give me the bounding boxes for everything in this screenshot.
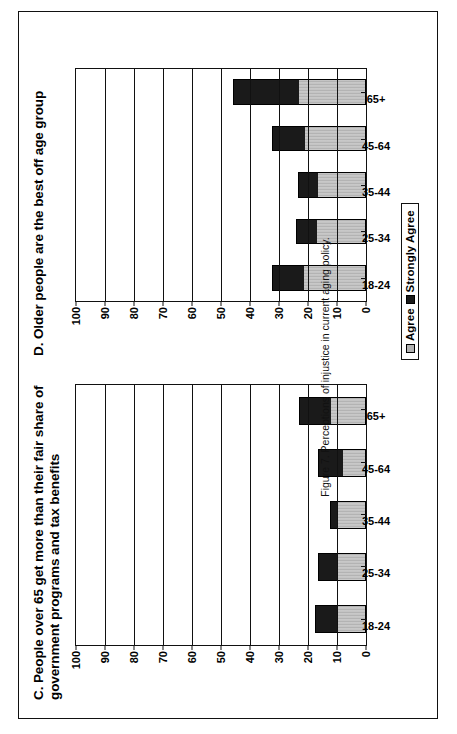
y-axis-label-20: 20 — [302, 307, 314, 319]
y-tick-30 — [278, 645, 279, 650]
gridline-40 — [250, 385, 251, 645]
panel-c-title: C. People over 65 get more than their fa… — [31, 374, 62, 704]
y-axis-label-10: 10 — [331, 651, 343, 663]
bar-segment-strongly-agree-65+ — [232, 79, 299, 105]
stacked-bar-18-24 — [315, 605, 366, 634]
gridline-50 — [221, 69, 222, 301]
stacked-bar-65+ — [232, 79, 365, 105]
stacked-bar-45-64 — [271, 126, 365, 152]
category-label-35-44: 35-44 — [361, 186, 389, 198]
y-tick-40 — [249, 645, 250, 650]
category-label-65+: 65+ — [366, 410, 385, 422]
gridline-20 — [308, 69, 309, 301]
gridline-90 — [105, 69, 106, 301]
y-axis-label-60: 60 — [186, 307, 198, 319]
legend-swatch-agree-icon — [405, 344, 414, 353]
category-label-65+: 65+ — [366, 93, 385, 105]
y-tick-80 — [133, 301, 134, 306]
y-axis-label-40: 40 — [244, 651, 256, 663]
y-tick-70 — [162, 301, 163, 306]
bar-segment-agree-35-44 — [318, 172, 366, 198]
bar-segment-agree-65+ — [331, 397, 366, 426]
y-axis-label-70: 70 — [157, 307, 169, 319]
gridline-30 — [279, 385, 280, 645]
y-axis-label-80: 80 — [128, 651, 140, 663]
y-axis-label-50: 50 — [215, 307, 227, 319]
chart-panel-c: C. People over 65 get more than their fa… — [29, 374, 429, 704]
y-axis-label-90: 90 — [99, 307, 111, 319]
gridline-30 — [279, 69, 280, 301]
y-tick-100 — [75, 301, 76, 306]
category-label-45-64: 45-64 — [361, 463, 389, 475]
gridline-40 — [250, 69, 251, 301]
y-tick-90 — [104, 645, 105, 650]
y-axis-label-20: 20 — [302, 651, 314, 663]
gridline-20 — [308, 385, 309, 645]
gridline-10 — [337, 69, 338, 301]
gridline-60 — [192, 385, 193, 645]
figure-page: C. People over 65 get more than their fa… — [0, 0, 457, 734]
y-axis-label-100: 100 — [70, 307, 82, 325]
category-label-45-64: 45-64 — [361, 140, 389, 152]
legend-item-agree: Agree — [404, 308, 416, 353]
y-axis-label-0: 0 — [360, 307, 372, 313]
y-tick-90 — [104, 301, 105, 306]
y-tick-70 — [162, 645, 163, 650]
y-tick-20 — [307, 645, 308, 650]
y-axis-label-50: 50 — [215, 651, 227, 663]
rotated-figure-canvas: C. People over 65 get more than their fa… — [29, 22, 429, 712]
bar-segment-strongly-agree-18-24 — [271, 265, 303, 291]
y-tick-80 — [133, 645, 134, 650]
gridline-70 — [163, 69, 164, 301]
y-tick-20 — [307, 301, 308, 306]
y-axis-label-60: 60 — [186, 651, 198, 663]
legend-label-agree: Agree — [404, 308, 416, 341]
y-tick-10 — [336, 301, 337, 306]
bar-segment-strongly-agree-18-24 — [315, 605, 337, 634]
y-axis-label-90: 90 — [99, 651, 111, 663]
y-axis-label-80: 80 — [128, 307, 140, 319]
category-tick-65+ — [361, 92, 367, 93]
y-tick-40 — [249, 301, 250, 306]
y-tick-0 — [365, 301, 366, 306]
gridline-10 — [337, 385, 338, 645]
category-label-18-24: 18-24 — [361, 279, 389, 291]
y-axis-label-100: 100 — [70, 651, 82, 669]
bar-segment-agree-45-64 — [305, 126, 366, 152]
bar-segment-strongly-agree-25-34 — [318, 553, 337, 582]
bar-segment-strongly-agree-25-34 — [296, 219, 316, 245]
chart-panel-d: D. Older people are the best off age gro… — [29, 60, 429, 360]
figure-caption-wrap: Figure 7. Perceptions of injustice in cu… — [437, 0, 453, 734]
y-axis-label-30: 30 — [273, 651, 285, 663]
category-label-18-24: 18-24 — [361, 620, 389, 632]
gridline-90 — [105, 385, 106, 645]
y-tick-10 — [336, 645, 337, 650]
stacked-bar-25-34 — [318, 553, 366, 582]
y-axis-label-0: 0 — [360, 651, 372, 657]
y-axis-label-40: 40 — [244, 307, 256, 319]
bar-segment-agree-18-24 — [303, 265, 365, 291]
y-tick-60 — [191, 301, 192, 306]
legend-item-strongly-agree: Strongly Agree — [404, 210, 416, 304]
category-label-25-34: 25-34 — [361, 567, 389, 579]
y-axis-label-10: 10 — [331, 307, 343, 319]
y-axis-label-70: 70 — [157, 651, 169, 663]
figure-caption: Figure 7. Perceptions of injustice in cu… — [319, 237, 331, 497]
chart-legend: Agree Strongly Agree — [401, 203, 419, 360]
category-label-25-34: 25-34 — [361, 232, 389, 244]
legend-label-strongly-agree: Strongly Agree — [404, 210, 416, 292]
y-tick-30 — [278, 301, 279, 306]
y-tick-50 — [220, 645, 221, 650]
category-tick-65+ — [361, 409, 367, 410]
gridline-60 — [192, 69, 193, 301]
y-tick-0 — [365, 645, 366, 650]
y-tick-50 — [220, 301, 221, 306]
gridline-50 — [221, 385, 222, 645]
y-tick-100 — [75, 645, 76, 650]
y-axis-label-30: 30 — [273, 307, 285, 319]
gridline-80 — [134, 385, 135, 645]
legend-swatch-strongly-agree-icon — [405, 295, 414, 304]
bar-segment-strongly-agree-45-64 — [271, 126, 304, 152]
category-label-35-44: 35-44 — [361, 515, 389, 527]
gridline-70 — [163, 385, 164, 645]
